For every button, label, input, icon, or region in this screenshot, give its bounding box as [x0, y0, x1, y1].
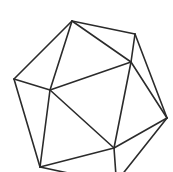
edge-R-F — [114, 118, 167, 148]
edge-L-C — [14, 79, 50, 90]
edge-E-X1 — [40, 167, 82, 172]
edge-C-F — [50, 90, 114, 148]
edge-B-D — [131, 34, 135, 62]
edge-C-E — [40, 90, 50, 167]
edge-D-F — [114, 62, 131, 148]
edge-L-E — [14, 79, 40, 167]
edge-C-D — [50, 62, 131, 90]
icosahedron-wireframe — [0, 0, 173, 172]
edge-R-X3 — [121, 118, 167, 172]
edge-F-E — [40, 148, 114, 167]
edge-F-X2 — [114, 148, 116, 172]
wireframe-edges — [14, 21, 167, 172]
